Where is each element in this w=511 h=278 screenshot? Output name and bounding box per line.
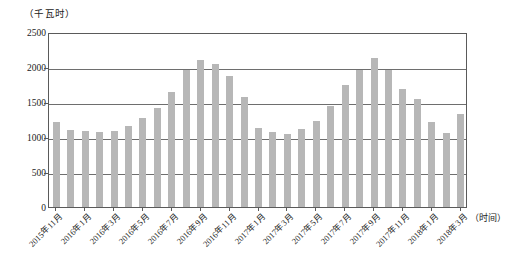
bar xyxy=(168,92,175,207)
bar xyxy=(53,122,60,207)
y-axis: 05001000150020002500 xyxy=(0,33,46,208)
bar xyxy=(96,132,103,207)
x-tick-label: 2018年3月 xyxy=(435,212,469,246)
x-tick-label: 2017年7月 xyxy=(319,212,353,246)
bar xyxy=(371,58,378,207)
bar-chart: （千瓦时） 05001000150020002500 2015年11月2016年… xyxy=(0,0,511,278)
bar xyxy=(342,85,349,207)
bar xyxy=(183,70,190,207)
bar xyxy=(385,70,392,207)
bar xyxy=(212,64,219,208)
bar xyxy=(327,106,334,207)
bar xyxy=(125,126,132,207)
x-tick-label: 2016年1月 xyxy=(59,212,93,246)
y-tick-label: 500 xyxy=(2,168,46,178)
bar xyxy=(255,128,262,207)
bar xyxy=(67,130,74,207)
bar xyxy=(241,97,248,207)
bar xyxy=(82,131,89,207)
bar xyxy=(139,118,146,207)
bar xyxy=(414,99,421,207)
x-tick-label: 2016年7月 xyxy=(146,212,180,246)
bar xyxy=(443,133,450,207)
y-tick-label: 2500 xyxy=(2,28,46,38)
bar xyxy=(154,108,161,207)
bar xyxy=(399,89,406,207)
y-tick-label: 1000 xyxy=(2,133,46,143)
bar xyxy=(269,132,276,207)
bar xyxy=(111,131,118,207)
bar xyxy=(284,134,291,208)
bar xyxy=(226,76,233,207)
x-tick-label: 2018年1月 xyxy=(406,212,440,246)
x-axis: 2015年11月2016年1月2016年3月2016年5月2016年7月2016… xyxy=(0,208,511,278)
x-tick-label: 2016年5月 xyxy=(117,212,151,246)
x-tick-label: 2015年11月 xyxy=(28,212,65,249)
bar xyxy=(298,129,305,207)
y-tick-label: 2000 xyxy=(2,63,46,73)
y-axis-unit-label: （千瓦时） xyxy=(24,6,76,20)
bar xyxy=(356,70,363,207)
bar xyxy=(457,114,464,207)
x-axis-unit-label: （时间） xyxy=(470,211,506,224)
bar xyxy=(313,121,320,207)
y-tick-label: 1500 xyxy=(2,98,46,108)
plot-area xyxy=(48,33,467,208)
bar xyxy=(197,60,204,207)
x-tick-label: 2016年3月 xyxy=(88,212,122,246)
bar-series xyxy=(49,34,466,207)
bar xyxy=(428,122,435,207)
